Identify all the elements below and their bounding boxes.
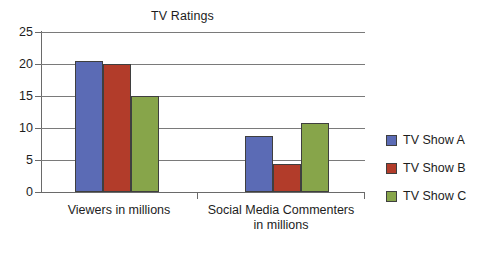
y-tick-label: 5 (3, 153, 33, 167)
legend-swatch-icon (386, 163, 397, 174)
x-category-label-1: Social Media Commenters in millions (197, 203, 365, 233)
bar (131, 96, 159, 192)
x-axis-line (41, 192, 365, 193)
x-category-label-0: Viewers in millions (41, 203, 197, 218)
y-tick-label: 10 (3, 121, 33, 135)
chart-title: TV Ratings (0, 9, 365, 23)
x-category-label-line: Social Media Commenters (197, 203, 365, 218)
bar (301, 123, 329, 192)
bar (273, 164, 301, 192)
bar (75, 61, 103, 192)
legend-item[interactable]: TV Show C (386, 182, 466, 210)
chart-legend: TV Show A TV Show B TV Show C (386, 126, 466, 210)
y-tick-label: 20 (3, 57, 33, 71)
y-tick-label: 15 (3, 89, 33, 103)
bar (245, 136, 273, 192)
legend-swatch-icon (386, 191, 397, 202)
y-tick-label: 0 (3, 185, 33, 199)
x-category-label-line: in millions (197, 218, 365, 233)
gridline (41, 32, 365, 33)
legend-item-label: TV Show B (403, 161, 466, 175)
y-axis-tick-labels: 25 20 15 10 5 0 (0, 32, 33, 192)
x-tick-mark (364, 193, 365, 199)
legend-item[interactable]: TV Show B (386, 154, 466, 182)
plot-area (41, 32, 365, 192)
tv-ratings-bar-chart: TV Ratings 25 20 15 10 5 0 Viewers in mi… (0, 0, 487, 253)
y-tick-label: 25 (3, 25, 33, 39)
x-tick-mark (197, 193, 198, 199)
legend-item[interactable]: TV Show A (386, 126, 466, 154)
bar (103, 64, 131, 192)
legend-item-label: TV Show C (403, 189, 466, 203)
legend-swatch-icon (386, 135, 397, 146)
x-category-label-line: Viewers in millions (41, 203, 197, 218)
legend-item-label: TV Show A (403, 133, 465, 147)
